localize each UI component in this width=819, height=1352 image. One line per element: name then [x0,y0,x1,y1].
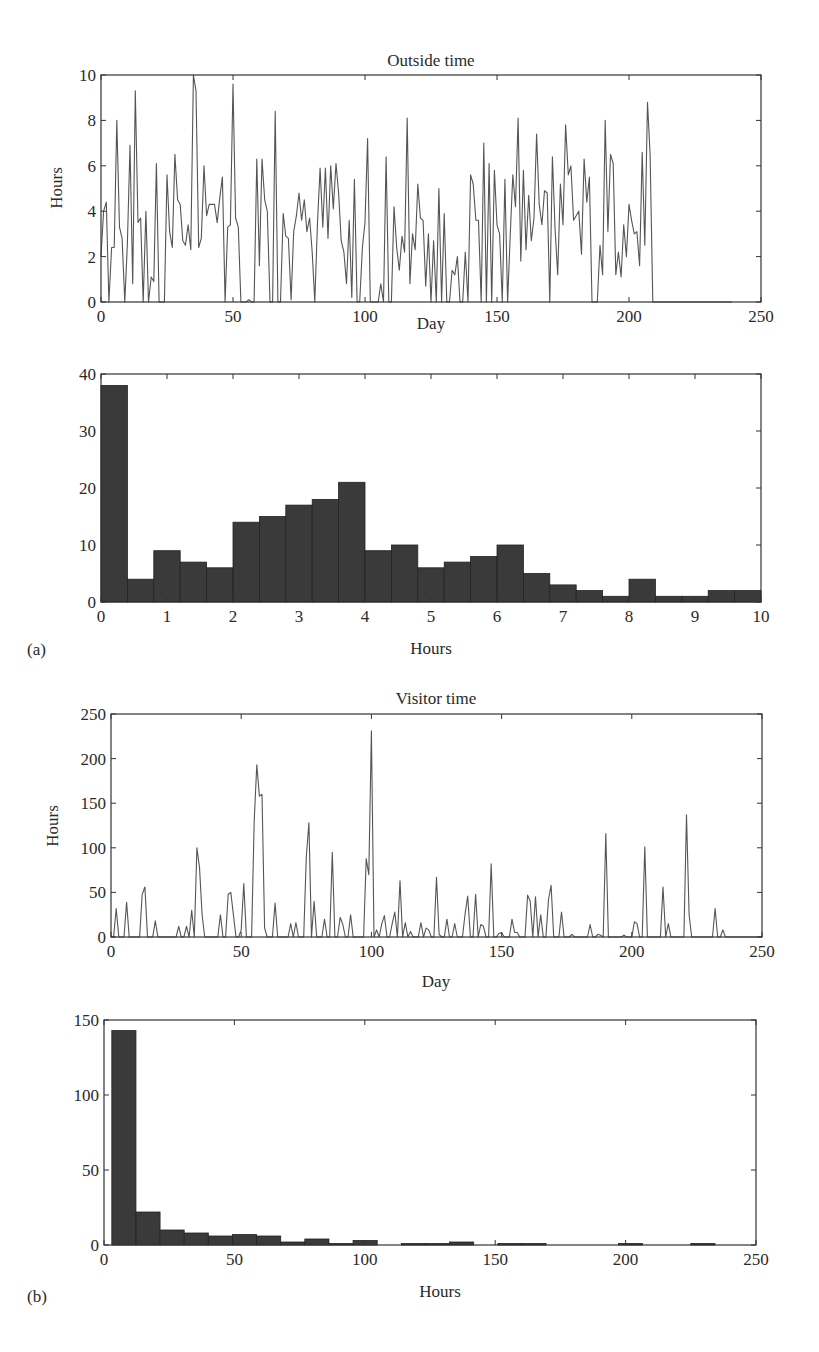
y-tick-label: 50 [89,883,106,902]
x-axis-label: Hours [419,1282,461,1301]
x-tick-label: 150 [489,942,515,961]
histogram-bar [180,562,206,602]
y-tick-label: 6 [88,157,97,176]
y-tick-label: 20 [79,479,96,498]
histogram-bar [305,1239,329,1245]
y-tick-label: 10 [79,66,96,85]
outside-time-histogram: 012345678910010203040 Hours (a) [27,365,770,659]
histogram-bar [708,591,734,602]
visitor-time-histogram: 050100150200250050100150 Hours (b) [27,1011,769,1306]
chart-title: Visitor time [396,689,477,708]
histogram-bar [207,568,233,602]
plot-area: 050100150200250050100150 [74,1011,769,1269]
panel-label-b: (b) [27,1287,47,1306]
data-line [111,731,762,937]
y-tick-label: 200 [81,750,107,769]
plot-area: 012345678910010203040 [79,365,770,626]
x-tick-label: 1 [163,607,172,626]
visitor-time-line-chart: Visitor time 050100150200250050100150200… [43,689,775,991]
x-tick-label: 4 [361,607,370,626]
plot-area: 050100150200250050100150200250 [81,705,775,961]
x-axis-label: Day [422,972,451,991]
chart-title: Outside time [387,51,474,70]
histogram-bar [603,596,629,602]
y-tick-label: 250 [81,705,107,724]
x-tick-label: 6 [493,607,502,626]
y-tick-label: 150 [81,794,107,813]
y-tick-label: 0 [98,928,107,947]
y-tick-label: 150 [74,1011,100,1030]
histogram-bar [286,505,312,602]
histogram-bar [127,579,153,602]
x-tick-label: 150 [482,1250,508,1269]
y-tick-label: 10 [79,536,96,555]
histogram-bar [365,551,391,602]
histogram-bar [233,522,259,602]
x-tick-label: 100 [352,307,378,326]
y-tick-label: 8 [88,111,97,130]
x-tick-label: 250 [748,307,774,326]
x-tick-label: 200 [616,307,642,326]
x-tick-label: 200 [619,942,645,961]
histogram-bar [418,568,444,602]
x-tick-label: 250 [743,1250,769,1269]
data-line [101,75,732,302]
x-tick-label: 0 [107,942,116,961]
x-tick-label: 7 [559,607,568,626]
histogram-bar [339,482,365,602]
x-axis-label: Hours [410,639,452,658]
y-tick-label: 4 [88,202,97,221]
y-axis-label: Hours [43,805,62,847]
histogram-bar [160,1230,184,1245]
histogram-bar [136,1212,160,1245]
y-tick-label: 0 [88,593,97,612]
outside-time-line-chart: Outside time 0501001502002500246810 Day … [47,51,774,333]
x-tick-label: 100 [359,942,385,961]
y-tick-label: 0 [91,1236,100,1255]
x-tick-label: 10 [753,607,770,626]
x-tick-label: 9 [691,607,700,626]
histogram-bar [232,1235,256,1246]
x-tick-label: 5 [427,607,436,626]
histogram-bar [576,591,602,602]
histogram-bar [312,499,338,602]
histogram-bar [444,562,470,602]
plot-area: 0501001502002500246810 [79,66,774,326]
y-tick-label: 50 [82,1161,99,1180]
histogram-bar [154,551,180,602]
histogram-bar [497,545,523,602]
panel-label-a: (a) [27,640,46,659]
x-tick-label: 2 [229,607,238,626]
y-tick-label: 2 [88,248,97,267]
x-tick-label: 150 [484,307,510,326]
y-axis-label: Hours [47,167,66,209]
histogram-bar [208,1236,232,1245]
histogram-bar [184,1233,208,1245]
histogram-bar [471,556,497,602]
histogram-bar [101,385,127,602]
figure-canvas: Outside time 0501001502002500246810 Day … [0,0,819,1352]
x-tick-label: 200 [613,1250,639,1269]
x-tick-label: 3 [295,607,304,626]
plot-frame [101,75,761,302]
y-tick-label: 100 [81,839,107,858]
histogram-bar [257,1236,281,1245]
x-tick-label: 0 [100,1250,109,1269]
histogram-bar [391,545,417,602]
x-tick-label: 50 [226,1250,243,1269]
x-tick-label: 0 [97,607,106,626]
x-tick-label: 100 [352,1250,378,1269]
x-tick-label: 50 [233,942,250,961]
histogram-bar [629,579,655,602]
histogram-bar [112,1031,136,1246]
y-tick-label: 0 [88,293,97,312]
x-tick-label: 8 [625,607,634,626]
x-tick-label: 50 [225,307,242,326]
histogram-bar [259,517,285,603]
histogram-bar [655,596,681,602]
y-tick-label: 30 [79,422,96,441]
x-axis-label: Day [417,314,446,333]
x-tick-label: 0 [97,307,106,326]
y-tick-label: 100 [74,1086,100,1105]
plot-frame [104,1020,756,1245]
